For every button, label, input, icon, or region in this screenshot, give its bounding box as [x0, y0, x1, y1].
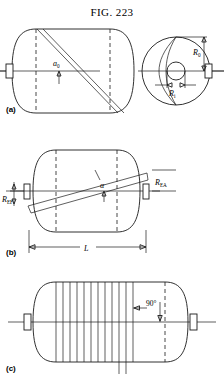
inner-radius-dimension-a: Ri	[155, 71, 196, 99]
polar-boss-left-a	[6, 64, 13, 78]
hoop-band-extension-c	[119, 362, 126, 374]
wind-angle-annotation-b: α	[100, 181, 106, 202]
label-alpha: α	[100, 181, 105, 190]
polar-boss-left-b	[24, 184, 30, 199]
polar-boss-left-c	[24, 314, 31, 330]
label-Ri: Ri	[168, 89, 176, 99]
polar-boss-right-b	[143, 184, 149, 199]
panel-b: α REF REA L	[0, 140, 224, 258]
label-L: L	[83, 244, 89, 253]
label-REF: REF	[1, 195, 13, 205]
label-R0: R0	[192, 48, 201, 58]
label-REA: REA	[154, 178, 167, 188]
axis-centerline-b	[6, 184, 160, 199]
figure-title-text: FIG. 223	[91, 6, 134, 18]
axis-centerline-a	[0, 64, 100, 78]
polar-boss-right-c	[190, 314, 197, 330]
panel-label-a: (a)	[6, 105, 16, 114]
helical-band-b	[28, 173, 148, 213]
panel-c: 90°	[0, 262, 224, 374]
panel-label-b: (b)	[6, 248, 16, 257]
outer-radius-dimension-a: R0	[176, 37, 207, 71]
panel-a: a0 R0	[0, 22, 224, 120]
figure-title: FIG. 223	[0, 6, 224, 18]
label-90deg: 90°	[146, 299, 157, 308]
vessel-end-view-a	[138, 37, 224, 105]
panel-label-c: (c)	[6, 364, 16, 373]
radius-ea-dimension-b: REA	[152, 170, 176, 191]
label-a0: a0	[53, 59, 60, 69]
band-width-annotation-a: a0	[53, 59, 61, 84]
band-leader-b	[95, 170, 100, 180]
hoop-angle-annotation-c: 90°	[133, 299, 162, 322]
length-dimension-b: L	[29, 230, 146, 253]
